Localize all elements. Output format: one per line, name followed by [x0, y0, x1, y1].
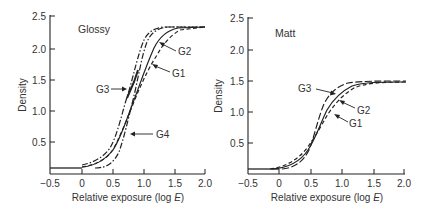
svg-text:G3: G3 [298, 83, 312, 94]
y-tick-label: 2.5 [230, 13, 244, 24]
matt-chart: 2.5 2.0 1.5 1.0 0.5 −0.5 0 0.5 1.0 1.5 2… [213, 13, 411, 204]
panel-title-glossy: Glossy [78, 23, 111, 35]
y-axis-title: Density [17, 78, 28, 111]
x-tick-label: 2.0 [397, 178, 411, 189]
annotation-g4: G4 [130, 129, 170, 140]
x-tick-label: 0.5 [106, 178, 120, 189]
y-tick-label: 2.0 [32, 44, 46, 55]
svg-text:G1: G1 [172, 68, 186, 79]
x-tick-label: 0.5 [304, 178, 318, 189]
y-tick-label: 1.5 [32, 75, 46, 86]
y-tick-label: 0.5 [32, 137, 46, 148]
svg-text:G1: G1 [349, 118, 363, 129]
y-tick-label: 2.5 [32, 11, 46, 22]
annotation-g1: G1 [334, 114, 363, 129]
y-tick-label: 1.0 [230, 107, 244, 118]
x-tick-label: 1.5 [168, 178, 182, 189]
x-axis-title: Relative exposure (log E) [72, 192, 184, 203]
x-tick-label: −0.5 [238, 178, 258, 189]
x-tick-label: −0.5 [40, 178, 60, 189]
x-tick-label: 1.0 [335, 178, 349, 189]
y-tick-label: 1.0 [32, 106, 46, 117]
y-tick-label: 0.5 [230, 138, 244, 149]
y-tick-label: 1.5 [230, 76, 244, 87]
annotation-g3: G3 [96, 84, 127, 95]
y-ticks [248, 18, 253, 143]
y-ticks [50, 16, 55, 142]
x-tick-label: 1.5 [367, 178, 381, 189]
x-ticks [82, 169, 205, 174]
svg-text:G4: G4 [156, 129, 170, 140]
x-tick-label: 1.0 [137, 178, 151, 189]
x-ticks [279, 169, 404, 174]
annotation-g2: G2 [339, 100, 371, 116]
figure: 2.5 2.0 1.5 1.0 0.5 −0.5 0 0.5 1.0 1.5 2… [0, 0, 428, 214]
x-tick-label: 0 [276, 178, 282, 189]
annotation-g2: G2 [159, 42, 192, 57]
glossy-chart: 2.5 2.0 1.5 1.0 0.5 −0.5 0 0.5 1.0 1.5 2… [17, 11, 212, 204]
y-tick-label: 2.0 [230, 45, 244, 56]
svg-text:G2: G2 [178, 46, 192, 57]
annotation-g1: G1 [152, 64, 186, 79]
y-axis-title: Density [213, 79, 224, 112]
panel-title-matt: Matt [275, 27, 296, 39]
x-tick-label: 0 [79, 178, 85, 189]
curve-g2 [272, 82, 406, 169]
x-axis-title: Relative exposure (log E) [271, 192, 383, 203]
svg-text:G3: G3 [96, 84, 110, 95]
svg-text:G2: G2 [357, 105, 371, 116]
x-tick-label: 2.0 [198, 178, 212, 189]
